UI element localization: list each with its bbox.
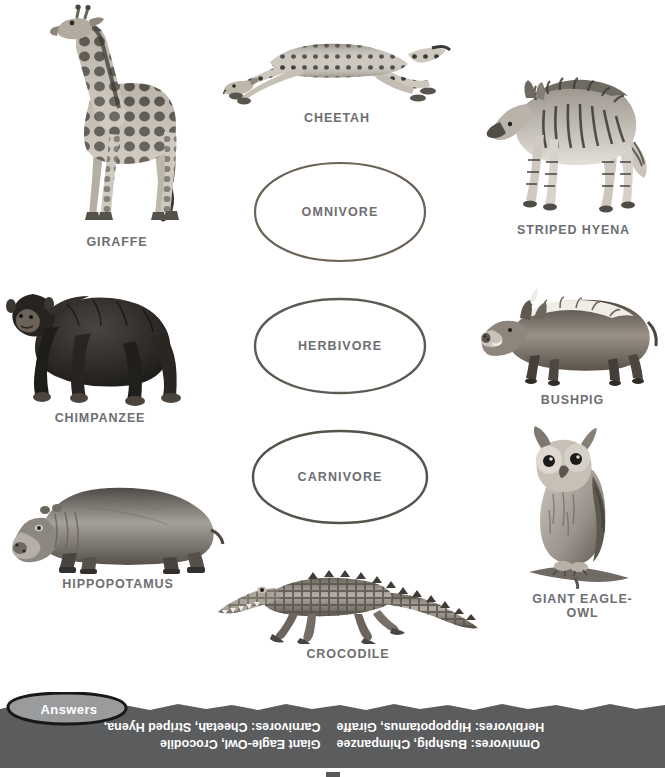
- animal-card-hippopotamus[interactable]: HIPPOPOTAMUS: [8, 474, 228, 591]
- giant-eagle-owl-illustration: [519, 424, 647, 589]
- category-oval-herbivore[interactable]: HERBIVORE: [252, 296, 428, 396]
- animal-card-crocodile[interactable]: CROCODILE: [212, 556, 484, 661]
- answer-line-carnivores-cont: Giant Eagle-Owl, Crocodile: [160, 735, 320, 752]
- animal-label-bushpig: BUSHPIG: [541, 393, 604, 407]
- chimpanzee-illustration: [5, 272, 195, 408]
- animal-card-striped-hyena[interactable]: STRIPED HYENA: [482, 44, 665, 237]
- category-label-herbivore: HERBIVORE: [298, 339, 382, 353]
- animal-card-bushpig[interactable]: BUSHPIG: [480, 278, 665, 407]
- answer-line-herbivores: Herbivores: Hippopotamus, Giraffe: [337, 718, 545, 735]
- answers-column-right: Omnivores: Bushpig, Chimpanzee Herbivore…: [333, 709, 648, 761]
- answer-line-omnivores: Omnivores: Bushpig, Chimpanzee: [337, 735, 541, 752]
- category-label-omnivore: OMNIVORE: [302, 205, 379, 219]
- animal-label-hippopotamus: HIPPOPOTAMUS: [62, 577, 173, 591]
- animal-card-giraffe[interactable]: GIRAFFE: [22, 4, 212, 249]
- animal-label-crocodile: CROCODILE: [306, 647, 389, 661]
- animal-label-giant-eagle-owl: GIANT EAGLE- OWL: [532, 592, 632, 620]
- animal-card-chimpanzee[interactable]: CHIMPANZEE: [0, 272, 200, 425]
- answers-tab[interactable]: Answers: [6, 692, 128, 726]
- cheetah-illustration: [222, 18, 452, 108]
- answers-tab-label: Answers: [6, 692, 128, 726]
- bushpig-illustration: [480, 278, 665, 390]
- worksheet-sheet: GIRAFFE: [0, 0, 665, 777]
- animal-card-cheetah[interactable]: CHEETAH: [222, 18, 452, 125]
- crocodile-illustration: [212, 556, 484, 644]
- striped-hyena-illustration: [482, 44, 665, 220]
- animal-label-chimpanzee: CHIMPANZEE: [55, 411, 146, 425]
- category-oval-carnivore[interactable]: CARNIVORE: [250, 428, 430, 526]
- animal-label-giraffe: GIRAFFE: [86, 235, 147, 249]
- animal-label-striped-hyena: STRIPED HYENA: [517, 223, 630, 237]
- animal-label-cheetah: CHEETAH: [304, 111, 370, 125]
- hippopotamus-illustration: [11, 474, 226, 574]
- answers-strip: Omnivores: Bushpig, Chimpanzee Herbivore…: [0, 700, 665, 768]
- category-oval-omnivore[interactable]: OMNIVORE: [252, 160, 428, 264]
- giraffe-illustration: [32, 4, 202, 232]
- answer-line-carnivores: Carnivores: Cheetah, Striped Hyena,: [104, 718, 321, 735]
- category-label-carnivore: CARNIVORE: [298, 470, 383, 484]
- footer-mark: [326, 772, 340, 777]
- animal-card-giant-eagle-owl[interactable]: GIANT EAGLE- OWL: [505, 424, 660, 620]
